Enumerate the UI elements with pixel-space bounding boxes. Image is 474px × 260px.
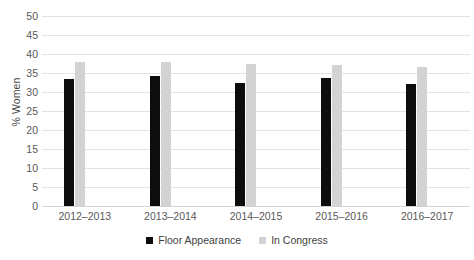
x-tick-label: 2014–2015 [216, 210, 296, 222]
y-tick-label: 45 [14, 30, 38, 41]
y-axis-tick-labels: 05101520253035404550 [14, 0, 38, 260]
bar-group [299, 16, 385, 206]
x-tick-label: 2015–2016 [302, 210, 382, 222]
bar-group [42, 16, 128, 206]
gridline-0 [42, 206, 470, 207]
legend-swatch-icon [146, 237, 153, 244]
bar-floor-appearance[interactable] [150, 76, 160, 206]
y-tick-label: 20 [14, 125, 38, 136]
bar-floor-appearance[interactable] [235, 83, 245, 207]
y-tick-label: 40 [14, 49, 38, 60]
x-tick-label: 2013–2014 [130, 210, 210, 222]
bar-group [128, 16, 214, 206]
y-tick-label: 10 [14, 163, 38, 174]
legend-label: Floor Appearance [158, 234, 241, 246]
bar-floor-appearance[interactable] [321, 78, 331, 206]
bar-in-congress[interactable] [332, 65, 342, 206]
legend-swatch-icon [259, 237, 266, 244]
bar-in-congress[interactable] [75, 62, 85, 206]
bar-group [213, 16, 299, 206]
x-tick-label: 2016–2017 [387, 210, 467, 222]
legend-label: In Congress [271, 234, 328, 246]
bar-in-congress[interactable] [417, 67, 427, 206]
legend-item-floor-appearance[interactable]: Floor Appearance [146, 234, 241, 246]
x-tick-label: 2012–2013 [45, 210, 125, 222]
bar-floor-appearance[interactable] [64, 79, 74, 206]
y-tick-label: 50 [14, 11, 38, 22]
bars-layer [42, 16, 470, 206]
plot-area [42, 16, 470, 206]
y-tick-label: 35 [14, 68, 38, 79]
bar-floor-appearance[interactable] [406, 84, 416, 206]
legend-item-in-congress[interactable]: In Congress [259, 234, 328, 246]
bar-chart: % Women 05101520253035404550 2012–201320… [0, 0, 474, 260]
y-tick-label: 0 [14, 201, 38, 212]
bar-in-congress[interactable] [246, 64, 256, 207]
y-tick-label: 15 [14, 144, 38, 155]
y-tick-label: 30 [14, 87, 38, 98]
x-axis-tick-labels: 2012–20132013–20142014–20152015–20162016… [42, 210, 470, 228]
chart-legend: Floor AppearanceIn Congress [0, 234, 474, 246]
bar-in-congress[interactable] [161, 62, 171, 206]
y-tick-label: 25 [14, 106, 38, 117]
y-tick-label: 5 [14, 182, 38, 193]
bar-group [384, 16, 470, 206]
